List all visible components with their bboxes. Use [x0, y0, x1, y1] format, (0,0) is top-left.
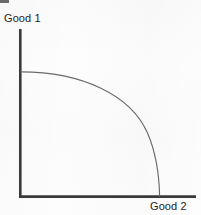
- ppf-curve: [21, 72, 160, 196]
- y-axis-label: Good 1: [4, 12, 41, 25]
- x-axis-label: Good 2: [150, 200, 187, 213]
- ppf-figure-canvas: Good 1 Good 2: [0, 0, 201, 215]
- ppf-plot-area: [0, 0, 201, 215]
